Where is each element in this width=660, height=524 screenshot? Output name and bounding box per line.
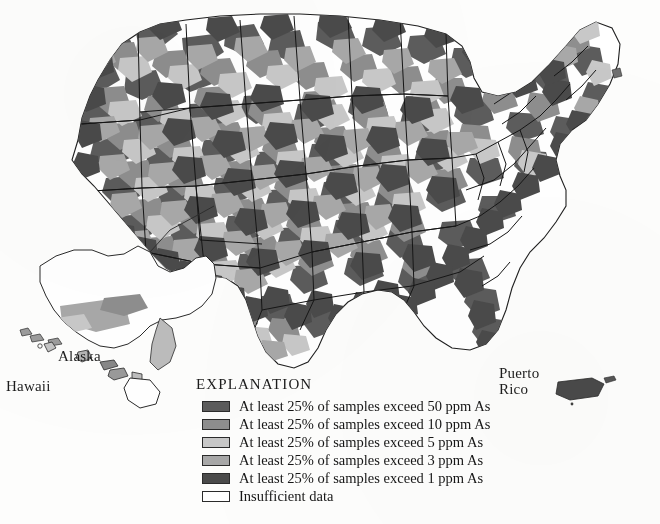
legend-swatch-3ppm <box>202 455 230 466</box>
legend-item-5ppm: At least 25% of samples exceed 5 ppm As <box>196 435 516 449</box>
legend-item-3ppm: At least 25% of samples exceed 3 ppm As <box>196 453 516 467</box>
hawaii-island-big-island <box>124 378 160 408</box>
legend-label-5ppm: At least 25% of samples exceed 5 ppm As <box>239 435 483 450</box>
puerto-rico-outline <box>556 378 604 400</box>
puerto-rico-inset <box>556 376 616 405</box>
legend-label-insufficient-data: Insufficient data <box>239 489 333 504</box>
legend-swatch-5ppm <box>202 437 230 448</box>
hawaii-label: Hawaii <box>6 379 51 395</box>
legend-item-10ppm: At least 25% of samples exceed 10 ppm As <box>196 417 516 431</box>
hawaii-island-molokai <box>100 360 118 370</box>
legend-swatch-insufficient-data <box>202 491 230 502</box>
legend-title: EXPLANATION <box>196 376 516 393</box>
legend-item-insufficient-data: Insufficient data <box>196 489 516 503</box>
legend-label-50ppm: At least 25% of samples exceed 50 ppm As <box>239 399 490 414</box>
legend-swatch-10ppm <box>202 419 230 430</box>
map-legend: EXPLANATION At least 25% of samples exce… <box>196 376 516 507</box>
legend-swatch-1ppm <box>202 473 230 484</box>
legend-swatch-50ppm <box>202 401 230 412</box>
alaska-label: Alaska <box>58 349 101 365</box>
hawaii-island-niihau <box>38 344 42 348</box>
legend-label-10ppm: At least 25% of samples exceed 10 ppm As <box>239 417 490 432</box>
map-page: Alaska Hawaii Puerto Rico EXPLANATION At… <box>0 0 660 524</box>
legend-item-1ppm: At least 25% of samples exceed 1 ppm As <box>196 471 516 485</box>
puerto-rico-islet <box>604 376 616 383</box>
legend-item-50ppm: At least 25% of samples exceed 50 ppm As <box>196 399 516 413</box>
hawaii-island-maui <box>108 368 128 380</box>
puerto-rico-small-islet <box>571 403 574 406</box>
offshore-islands <box>612 68 622 78</box>
legend-label-3ppm: At least 25% of samples exceed 3 ppm As <box>239 453 483 468</box>
legend-label-1ppm: At least 25% of samples exceed 1 ppm As <box>239 471 483 486</box>
